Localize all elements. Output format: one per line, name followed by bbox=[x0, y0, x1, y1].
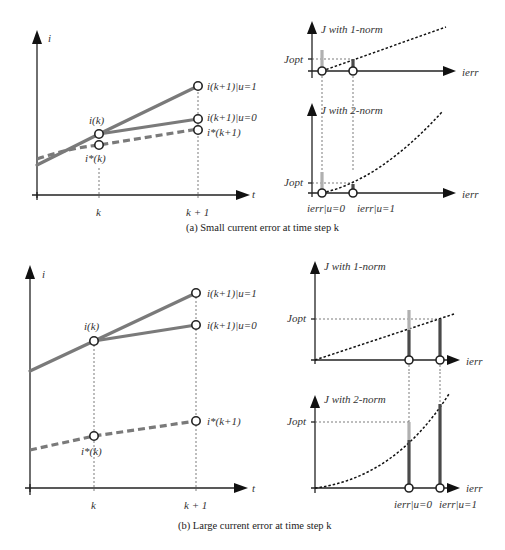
x-axis-arrow-icon bbox=[443, 188, 456, 198]
cost-title: J with 1-norm bbox=[324, 260, 386, 272]
label-i-k: i(k) bbox=[89, 114, 105, 127]
reference-current-line bbox=[30, 421, 196, 450]
jopt-label: Jopt bbox=[287, 415, 307, 427]
point-i-star-k bbox=[95, 141, 103, 149]
point-i-k1-u0 bbox=[192, 321, 200, 329]
point-i-star-k bbox=[90, 432, 98, 440]
tick-k: k bbox=[96, 206, 102, 218]
x-axis-label: ierr bbox=[466, 482, 483, 494]
panel-b-cost-2norm-plot: J with 2-norm ierr Jopt ierr|u=0 ierr|u=… bbox=[287, 372, 483, 510]
y-axis-arrow-icon bbox=[307, 21, 317, 34]
cost-title: J with 1-norm bbox=[321, 23, 383, 35]
caption-b: (b) Large current error at time step k bbox=[178, 520, 332, 532]
x-axis-label: ierr bbox=[462, 188, 479, 200]
tick-u1: ierr|u=1 bbox=[357, 202, 395, 214]
panel-b-left-plot: i t k k + 1 i(k) i*(k) i(k+1)|u=1 i(k+1)… bbox=[25, 265, 257, 511]
point-u0 bbox=[405, 356, 413, 364]
cost-curve bbox=[322, 112, 442, 193]
x-axis-label: t bbox=[252, 482, 256, 494]
y-axis-label: i bbox=[48, 32, 51, 44]
point-i-k1-u1 bbox=[192, 289, 200, 297]
label-i-k1-u1: i(k+1)|u=1 bbox=[207, 287, 257, 300]
label-i-star-k1: i*(k+1) bbox=[207, 126, 241, 139]
tick-k1: k + 1 bbox=[184, 499, 207, 511]
point-u1 bbox=[349, 67, 357, 75]
jopt-label: Jopt bbox=[284, 53, 304, 65]
cost-title: J with 2-norm bbox=[324, 393, 386, 405]
label-i-k1-u1: i(k+1)|u=1 bbox=[207, 80, 257, 93]
x-axis-label: ierr bbox=[466, 355, 483, 367]
point-i-k1-u1 bbox=[194, 82, 202, 90]
label-i-star-k: i*(k) bbox=[85, 152, 106, 165]
y-axis-arrow-icon bbox=[32, 30, 42, 44]
jopt-label: Jopt bbox=[287, 312, 307, 324]
y-axis-arrow-icon bbox=[310, 395, 320, 408]
point-u1 bbox=[436, 484, 444, 492]
point-i-k bbox=[95, 130, 103, 138]
point-i-star-k1 bbox=[194, 126, 202, 134]
label-i-k1-u0: i(k+1)|u=0 bbox=[207, 319, 257, 332]
x-axis-label: t bbox=[252, 188, 256, 200]
panel-a-cost-1norm-plot: J with 1-norm ierr Jopt bbox=[284, 21, 479, 80]
label-i-k: i(k) bbox=[84, 320, 100, 333]
panel-a-left-plot: i t k k + 1 i(k) i*(k) i(k+1)|u=1 i(k+1)… bbox=[32, 30, 257, 218]
tick-k1: k + 1 bbox=[186, 206, 209, 218]
point-i-star-k1 bbox=[192, 417, 200, 425]
tick-u0: ierr|u=0 bbox=[307, 202, 345, 214]
cost-curve bbox=[315, 394, 449, 488]
x-axis-arrow-icon bbox=[443, 66, 456, 76]
point-u0 bbox=[405, 484, 413, 492]
point-u0 bbox=[318, 67, 326, 75]
point-u0 bbox=[318, 189, 326, 197]
tick-u0: ierr|u=0 bbox=[394, 498, 432, 510]
x-axis-arrow-icon bbox=[447, 355, 460, 365]
panel-b-cost-1norm-plot: J with 1-norm ierr Jopt bbox=[287, 260, 483, 372]
label-i-star-k: i*(k) bbox=[81, 445, 102, 458]
caption-a: (a) Small current error at time step k bbox=[186, 222, 340, 234]
point-u1 bbox=[349, 189, 357, 197]
label-i-k1-u0: i(k+1)|u=0 bbox=[207, 111, 257, 124]
cost-curve bbox=[315, 314, 454, 360]
y-axis-arrow-icon bbox=[307, 103, 317, 116]
point-i-k bbox=[90, 337, 98, 345]
x-axis-arrow-icon bbox=[234, 483, 248, 493]
x-axis-arrow-icon bbox=[447, 483, 460, 493]
x-axis-arrow-icon bbox=[236, 190, 250, 200]
y-axis-label: i bbox=[42, 268, 45, 280]
point-u1 bbox=[436, 356, 444, 364]
y-axis-arrow-icon bbox=[25, 265, 35, 279]
cost-title: J with 2-norm bbox=[321, 104, 383, 116]
jopt-label: Jopt bbox=[284, 176, 304, 188]
panel-a-cost-2norm-plot: J with 2-norm ierr Jopt ierr|u=0 ierr|u=… bbox=[284, 80, 479, 214]
tick-u1: ierr|u=1 bbox=[439, 498, 477, 510]
y-axis-arrow-icon bbox=[310, 261, 320, 274]
tick-k: k bbox=[91, 499, 97, 511]
figure-canvas: i t k k + 1 i(k) i*(k) i(k+1)|u=1 i(k+1)… bbox=[0, 0, 505, 550]
point-i-k1-u0 bbox=[194, 115, 202, 123]
label-i-star-k1: i*(k+1) bbox=[207, 415, 241, 428]
actual-current-line bbox=[30, 341, 94, 371]
x-axis-label: ierr bbox=[462, 66, 479, 78]
